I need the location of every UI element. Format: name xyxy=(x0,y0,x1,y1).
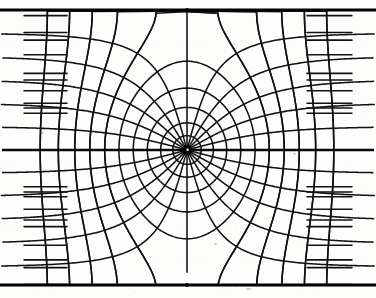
cusp-point xyxy=(185,283,189,287)
figure-root xyxy=(0,0,376,298)
conformal-field-map xyxy=(0,0,376,298)
singularity-highlight xyxy=(186,149,189,152)
cusp-point xyxy=(185,8,189,12)
